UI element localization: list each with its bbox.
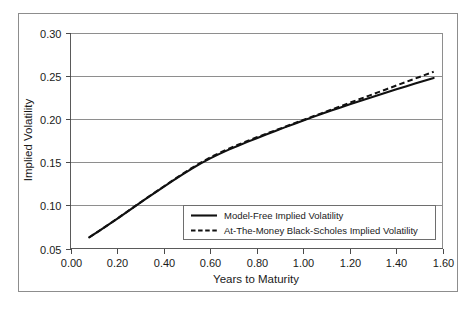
x-tick-label: 0.60 bbox=[200, 257, 221, 269]
x-tick-label: 0.40 bbox=[154, 257, 175, 269]
y-tick-label: 0.05 bbox=[40, 244, 61, 256]
x-tick-label: 1.60 bbox=[433, 257, 454, 269]
x-tick-label: 1.00 bbox=[293, 257, 314, 269]
y-axis-ticks: 0.050.100.150.200.250.30 bbox=[40, 28, 70, 256]
x-tick-label: 1.40 bbox=[386, 257, 407, 269]
x-tick-label: 0.20 bbox=[107, 257, 128, 269]
legend-label-1: At-The-Money Black-Scholes Implied Volat… bbox=[224, 225, 418, 236]
y-tick-label: 0.25 bbox=[40, 71, 61, 83]
y-tick-label: 0.15 bbox=[40, 157, 61, 169]
x-tick-label: 0.80 bbox=[247, 257, 268, 269]
gridlines bbox=[71, 34, 444, 206]
x-tick-label: 0.00 bbox=[61, 257, 82, 269]
legend-label-0: Model-Free Implied Volatility bbox=[224, 210, 344, 221]
x-tick-label: 1.20 bbox=[340, 257, 361, 269]
y-tick-label: 0.30 bbox=[40, 28, 61, 40]
implied-volatility-chart: 0.050.100.150.200.250.30 0.000.200.400.6… bbox=[0, 0, 476, 309]
y-tick-label: 0.20 bbox=[40, 114, 61, 126]
y-tick-label: 0.10 bbox=[40, 200, 61, 212]
figure-root: 0.050.100.150.200.250.30 0.000.200.400.6… bbox=[0, 0, 476, 309]
x-axis-ticks: 0.000.200.400.600.801.001.201.401.60 bbox=[61, 249, 454, 269]
chart-legend[interactable]: Model-Free Implied Volatility At-The-Mon… bbox=[184, 206, 436, 240]
y-axis-title: Implied Volatility bbox=[22, 99, 34, 182]
x-axis-title: Years to Maturity bbox=[213, 273, 299, 285]
